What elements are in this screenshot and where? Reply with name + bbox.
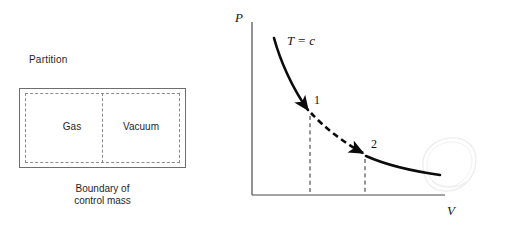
isotherm-solid-before-state-1 <box>274 38 308 110</box>
isotherm-label: T = c <box>287 33 315 48</box>
x-axis-label: V <box>447 203 457 218</box>
boundary-caption-line-2: control mass <box>19 195 186 207</box>
figure-free-expansion: Partition Gas Vacuum Boundary of control… <box>0 0 506 227</box>
state-point-2-label: 2 <box>371 137 377 151</box>
y-axis-label: P <box>234 10 243 25</box>
partition-label: Partition <box>29 54 68 65</box>
scan-smudge-artifact <box>423 138 476 191</box>
pv-chart-svg: P V T = c 1 2 <box>230 0 506 227</box>
partition-divider <box>102 93 103 163</box>
control-mass-diagram: Partition Gas Vacuum Boundary of control… <box>0 0 240 227</box>
free-expansion-path-dashed <box>311 113 363 153</box>
pv-diagram: P V T = c 1 2 <box>230 0 506 227</box>
boundary-caption: Boundary of control mass <box>19 183 186 207</box>
state-point-1-label: 1 <box>314 93 320 107</box>
vacuum-region-label: Vacuum <box>108 121 174 132</box>
gas-region-label: Gas <box>44 121 100 132</box>
boundary-caption-line-1: Boundary of <box>19 183 186 195</box>
isotherm-solid-after-state-2 <box>366 156 440 175</box>
